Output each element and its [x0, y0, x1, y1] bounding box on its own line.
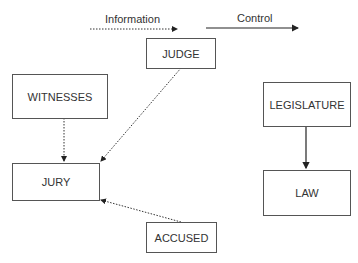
node-legislature: LEGISLATURE — [263, 82, 351, 127]
edge-accused-jury — [101, 200, 181, 222]
node-law: LAW — [263, 170, 351, 216]
node-law-label: LAW — [295, 187, 318, 199]
node-legislature-label: LEGISLATURE — [270, 99, 345, 111]
node-judge: JUDGE — [146, 38, 216, 69]
control-legend-label: Control — [237, 12, 272, 24]
node-witnesses-label: WITNESSES — [28, 91, 93, 103]
node-accused: ACCUSED — [146, 222, 217, 253]
node-witnesses: WITNESSES — [12, 74, 108, 119]
node-jury: JURY — [12, 163, 100, 201]
node-jury-label: JURY — [42, 176, 71, 188]
node-judge-label: JUDGE — [162, 48, 199, 60]
information-legend-label: Information — [105, 13, 160, 25]
node-accused-label: ACCUSED — [155, 232, 209, 244]
edge-judge-jury — [101, 68, 181, 161]
